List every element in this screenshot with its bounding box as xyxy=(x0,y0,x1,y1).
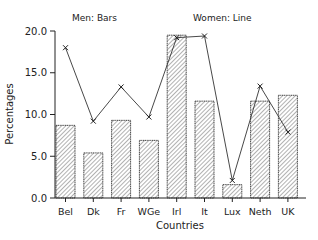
men-annotation: Men: Bars xyxy=(72,13,117,23)
x-tick-label: Irl xyxy=(172,206,181,217)
x-marker-icon xyxy=(63,45,68,50)
y-axis-title: Percentages xyxy=(4,83,15,144)
x-axis-title: Countries xyxy=(156,220,204,231)
x-tick-label: Lux xyxy=(224,206,241,217)
y-tick-label: 0.0 xyxy=(31,193,47,204)
x-tick-label: UK xyxy=(281,206,295,217)
x-tick-label: It xyxy=(201,206,208,217)
x-marker-icon xyxy=(91,119,96,124)
bar-dk xyxy=(84,153,103,198)
x-tick-label: Fr xyxy=(117,206,126,217)
bar-it xyxy=(195,101,214,198)
x-tick-label: WGe xyxy=(138,206,161,217)
y-tick-label: 20.0 xyxy=(25,26,47,37)
bar-lux xyxy=(223,185,242,198)
x-marker-icon xyxy=(146,115,151,120)
bar-bel xyxy=(56,125,75,198)
x-tick-label: Dk xyxy=(87,206,100,217)
x-tick-label: Bel xyxy=(58,206,73,217)
y-tick-label: 10.0 xyxy=(25,109,47,120)
bar-fr xyxy=(112,120,131,198)
men-bars xyxy=(56,35,297,198)
bar-line-chart: Men: Bars Women: Line 0.05.010.015.020.0… xyxy=(0,0,318,240)
y-tick-label: 15.0 xyxy=(25,67,47,78)
bar-irl xyxy=(167,35,186,198)
x-marker-icon xyxy=(119,84,124,89)
bar-neth xyxy=(251,101,270,198)
women-annotation: Women: Line xyxy=(193,13,252,23)
x-tick-label: Neth xyxy=(249,206,272,217)
x-marker-icon xyxy=(258,84,263,89)
bar-wge xyxy=(139,140,158,198)
x-ticks: BelDkFrWGeIrlItLuxNethUK xyxy=(58,198,295,217)
y-ticks: 0.05.010.015.020.0 xyxy=(25,26,55,204)
bar-uk xyxy=(278,95,297,198)
y-tick-label: 5.0 xyxy=(31,151,47,162)
